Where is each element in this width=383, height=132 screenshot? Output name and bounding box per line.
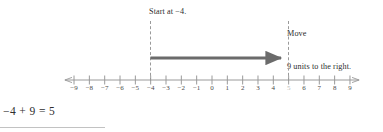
tick-label-0: 0 (204, 84, 220, 93)
tick-label-2: 2 (235, 84, 251, 93)
tick-label-8: 8 (327, 84, 343, 93)
tick-label-5: 5 (281, 84, 297, 93)
start-annotation: Start at −4. (149, 6, 186, 17)
tick-label--2: −2 (173, 84, 189, 93)
jump-arrow-icon (150, 51, 288, 65)
tick-label--8: −8 (81, 84, 97, 93)
number-line-figure: Start at −4. Move 9 units to the right. … (0, 0, 383, 132)
move-annotation-line1: Move (287, 28, 351, 39)
tick-label-9: 9 (342, 84, 358, 93)
tick-label-4: 4 (265, 84, 281, 93)
tick-label-1: 1 (219, 84, 235, 93)
tick-label--9: −9 (66, 84, 82, 93)
tick-label-3: 3 (250, 84, 266, 93)
tick-label--5: −5 (127, 84, 143, 93)
tick-label--3: −3 (158, 84, 174, 93)
equation-text: −4 + 9 = 5 (3, 104, 55, 119)
tick-label--6: −6 (112, 84, 128, 93)
number-line-axis (0, 68, 383, 98)
tick-label--1: −1 (189, 84, 205, 93)
bottom-divider (0, 127, 105, 128)
tick-label-7: 7 (311, 84, 327, 93)
tick-label--7: −7 (97, 84, 113, 93)
tick-label--4: −4 (143, 84, 159, 93)
tick-label-6: 6 (296, 84, 312, 93)
